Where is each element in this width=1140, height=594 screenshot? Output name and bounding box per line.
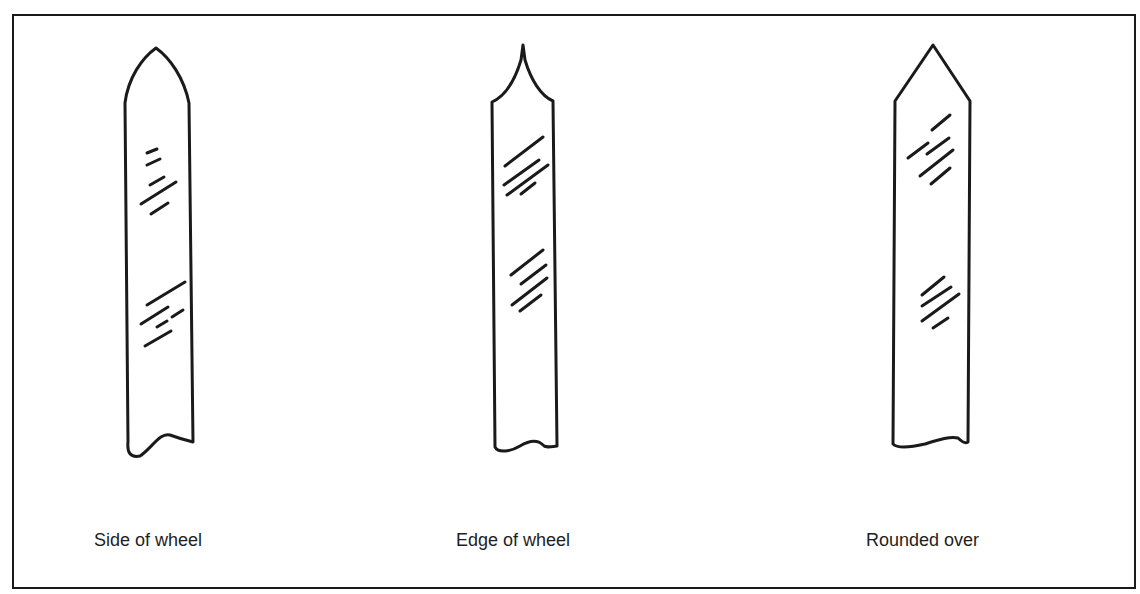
tool-rounded-over <box>893 45 970 447</box>
label-rounded-over: Rounded over <box>866 530 979 551</box>
scratch-marks-upper <box>908 115 953 184</box>
tool-side-of-wheel <box>125 48 193 456</box>
scratch-marks-upper <box>141 149 176 214</box>
tool-edge-of-wheel <box>492 45 557 451</box>
tool-outline <box>492 45 557 451</box>
scratch-marks-lower <box>922 277 959 328</box>
diagram-canvas <box>0 0 1140 594</box>
tool-outline <box>893 45 970 447</box>
tool-outline <box>125 48 193 456</box>
label-side-of-wheel: Side of wheel <box>94 530 202 551</box>
scratch-marks-upper <box>504 137 548 195</box>
scratch-marks-lower <box>511 250 547 311</box>
scratch-marks-lower <box>141 282 185 346</box>
label-edge-of-wheel: Edge of wheel <box>456 530 570 551</box>
